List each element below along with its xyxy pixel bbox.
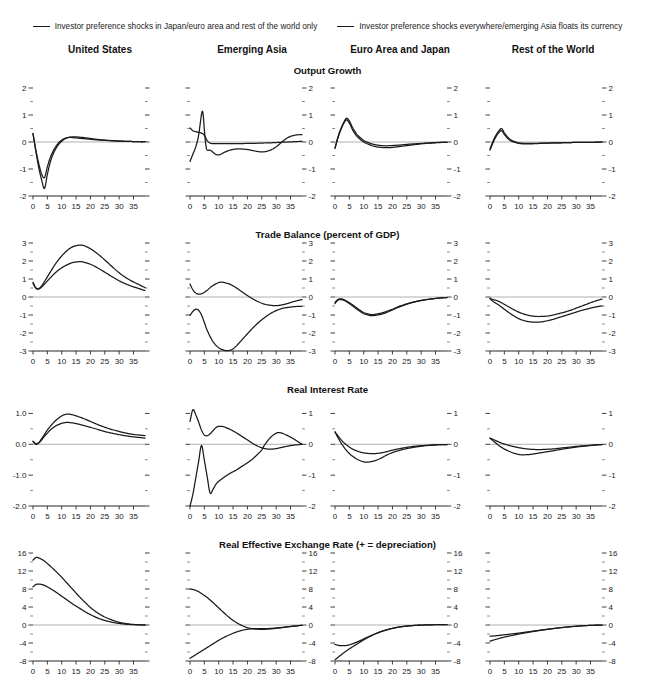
x-tick-label: 35 <box>286 202 295 211</box>
x-tick-label: 20 <box>243 512 252 521</box>
y-tick-label: 1 <box>454 275 459 284</box>
x-tick-label: 15 <box>229 202 238 211</box>
x-tick-label: 20 <box>388 357 397 366</box>
x-tick-label: 35 <box>586 667 595 676</box>
y-tick-label: 0 <box>609 138 614 147</box>
y-tick-label: 2 <box>454 257 459 266</box>
x-tick-label: 0 <box>31 667 36 676</box>
x-tick-label: 20 <box>86 357 95 366</box>
column-header-euro-area-japan: Euro Area and Japan <box>326 44 474 55</box>
x-tick-label: 15 <box>529 512 538 521</box>
x-tick-label: 20 <box>243 667 252 676</box>
y-tick-label: 16 <box>18 549 27 558</box>
y-tick-label: 2 <box>22 257 27 266</box>
legend-item-0: Investor preference shocks in Japan/euro… <box>33 22 318 31</box>
panel-united-states-output-growth: -2-101205101520253035 <box>3 78 177 220</box>
panel-rest-of-the-world-real-interest-rate: -2-10105101520253035 <box>460 388 634 530</box>
series-line-0 <box>490 625 602 636</box>
x-tick-label: 25 <box>557 357 566 366</box>
x-tick-label: 25 <box>257 512 266 521</box>
x-tick-label: 15 <box>72 357 81 366</box>
series-line-0 <box>490 128 602 149</box>
panel-united-states-real-effective-exchange-rate-depreciation-: -8-4048121605101520253035 <box>3 543 177 685</box>
y-tick-label: 12 <box>609 567 618 576</box>
x-tick-label: 0 <box>333 202 338 211</box>
panel-rest-of-the-world-real-effective-exchange-rate-depreciation-: -8-4048121605101520253035 <box>460 543 634 685</box>
x-tick-label: 0 <box>488 667 493 676</box>
x-tick-label: 35 <box>129 512 138 521</box>
x-tick-label: 25 <box>402 667 411 676</box>
x-tick-label: 25 <box>100 667 109 676</box>
x-tick-label: 0 <box>488 202 493 211</box>
x-tick-label: 20 <box>86 202 95 211</box>
y-tick-label: 4 <box>609 603 614 612</box>
y-tick-label: 2 <box>609 84 614 93</box>
x-tick-label: 30 <box>115 202 124 211</box>
x-tick-label: 35 <box>586 512 595 521</box>
x-tick-label: 15 <box>374 667 383 676</box>
x-tick-label: 30 <box>417 512 426 521</box>
y-tick-label: 0 <box>454 138 459 147</box>
row-title-output-growth: Output Growth <box>0 65 655 76</box>
x-tick-label: 0 <box>31 357 36 366</box>
x-tick-label: 15 <box>374 202 383 211</box>
y-tick-label: -1 <box>609 311 617 320</box>
x-tick-label: 35 <box>431 667 440 676</box>
y-tick-label: -8 <box>19 657 27 666</box>
column-header-united-states: United States <box>24 44 176 55</box>
x-tick-label: 25 <box>100 202 109 211</box>
y-tick-label: 2 <box>454 84 459 93</box>
x-tick-label: 25 <box>257 357 266 366</box>
x-tick-label: 10 <box>359 202 368 211</box>
series-line-1 <box>335 120 447 149</box>
x-tick-label: 30 <box>572 357 581 366</box>
x-tick-label: 15 <box>72 512 81 521</box>
x-tick-label: 30 <box>417 357 426 366</box>
series-line-0 <box>33 557 145 625</box>
x-tick-label: 20 <box>388 512 397 521</box>
y-tick-label: -4 <box>609 639 617 648</box>
figure-root: Investor preference shocks in Japan/euro… <box>0 0 655 699</box>
x-tick-label: 5 <box>502 357 507 366</box>
x-tick-label: 5 <box>202 357 207 366</box>
x-tick-label: 10 <box>359 667 368 676</box>
y-tick-label: 3 <box>454 239 459 248</box>
x-tick-label: 15 <box>72 667 81 676</box>
y-tick-label: -2 <box>19 192 27 201</box>
series-line-1 <box>33 262 145 291</box>
series-line-0 <box>190 410 302 450</box>
column-headers: United States Emerging Asia Euro Area an… <box>0 44 655 58</box>
x-tick-label: 5 <box>202 667 207 676</box>
x-tick-label: 35 <box>129 667 138 676</box>
panel-united-states-real-interest-rate: -2.0-1.00.01.005101520253035 <box>3 388 177 530</box>
y-tick-label: 1 <box>454 409 459 418</box>
y-tick-label: 0 <box>609 440 614 449</box>
x-tick-label: 30 <box>572 202 581 211</box>
y-tick-label: 4 <box>454 603 459 612</box>
x-tick-label: 30 <box>572 512 581 521</box>
x-tick-label: 5 <box>347 667 352 676</box>
y-tick-label: -2 <box>609 192 617 201</box>
x-tick-label: 5 <box>502 202 507 211</box>
x-tick-label: 30 <box>417 667 426 676</box>
y-tick-label: 0.0 <box>15 440 27 449</box>
x-tick-label: 10 <box>57 202 66 211</box>
column-header-rest-of-the-world: Rest of the World <box>478 44 628 55</box>
series-line-0 <box>190 128 302 144</box>
x-tick-label: 35 <box>286 512 295 521</box>
x-tick-label: 0 <box>488 512 493 521</box>
x-tick-label: 20 <box>543 202 552 211</box>
series-line-1 <box>335 432 447 462</box>
y-tick-label: 1 <box>609 409 614 418</box>
panel-united-states-trade-balance-percent-of-gdp-: -3-2-1012305101520253035 <box>3 233 177 375</box>
y-tick-label: 8 <box>22 585 27 594</box>
x-tick-label: 5 <box>202 202 207 211</box>
y-tick-label: 4 <box>22 603 27 612</box>
x-tick-label: 30 <box>417 202 426 211</box>
x-tick-label: 25 <box>557 512 566 521</box>
x-tick-label: 25 <box>100 357 109 366</box>
x-tick-label: 25 <box>257 202 266 211</box>
x-tick-label: 5 <box>45 357 50 366</box>
x-tick-label: 5 <box>502 512 507 521</box>
x-tick-label: 10 <box>514 202 523 211</box>
